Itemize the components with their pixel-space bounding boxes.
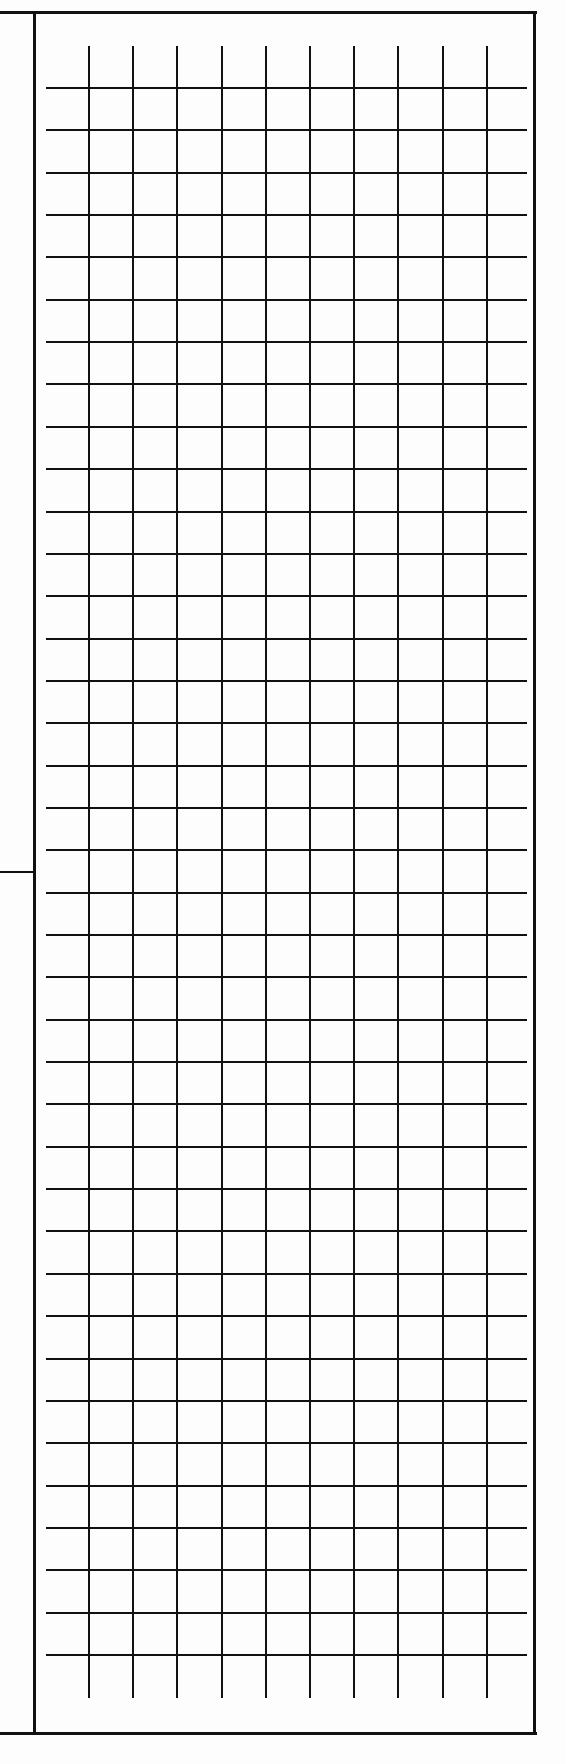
graph-paper-page xyxy=(0,0,566,1764)
grid-lines xyxy=(0,0,566,1764)
graph-grid xyxy=(0,0,566,1764)
